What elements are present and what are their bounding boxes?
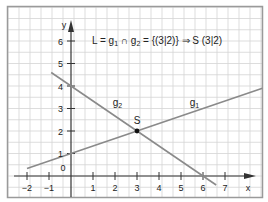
y-tick-label: 6 (58, 37, 63, 47)
x-tick-label: 7 (222, 183, 227, 193)
x-tick-label: 6 (200, 183, 205, 193)
y-tick-label: 1 (58, 149, 63, 159)
y-tick-label: 4 (58, 82, 63, 92)
y-tick-label: 3 (58, 104, 63, 114)
x-tick-label: −2 (22, 183, 32, 193)
intersection-point-S (135, 129, 140, 134)
point-label-S: S (134, 115, 141, 126)
y-tick-label: 2 (58, 127, 63, 137)
line-g2 (51, 73, 216, 186)
x-tick-label: −1 (44, 183, 54, 193)
y-axis-label: y (62, 20, 67, 30)
x-tick-label: 2 (112, 183, 117, 193)
x-axis-label: x (246, 183, 251, 193)
origin-label: 0 (60, 163, 65, 173)
x-tick-label: 1 (90, 183, 95, 193)
chart-title: L = g1 ∩ g2 = {(3|2)} ⇒ S (3|2) (92, 35, 222, 47)
label-g1: g1 (190, 97, 200, 109)
x-tick-label: 5 (178, 183, 183, 193)
coordinate-plot: −2−112345671234560xyg1g2S L = g1 ∩ g2 = … (0, 0, 268, 202)
x-tick-label: 4 (156, 183, 161, 193)
label-g2: g2 (113, 97, 123, 109)
y-axis-arrow-icon (68, 20, 74, 32)
x-tick-label: 3 (134, 183, 139, 193)
y-tick-label: 5 (58, 59, 63, 69)
